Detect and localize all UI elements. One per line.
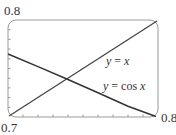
x-axis-max-label: 0.8 xyxy=(161,111,176,124)
origin-label: 0.7 xyxy=(1,121,17,134)
legend-equals: = xyxy=(111,54,124,68)
legend-cos: = cos xyxy=(108,79,140,93)
series-line-y-equals-x xyxy=(9,21,157,116)
y-axis-max-label: 0.8 xyxy=(4,4,20,17)
chart-canvas xyxy=(0,0,176,135)
legend-y-equals-x: y = x xyxy=(106,55,129,67)
legend-var-x: x xyxy=(140,79,145,93)
legend-y-equals-cos-x: y = cos x xyxy=(103,80,145,92)
legend-var-x: x xyxy=(124,54,129,68)
